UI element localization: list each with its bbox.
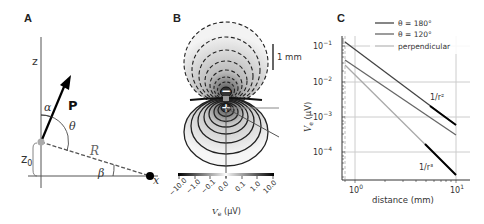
svg-text:10−1: 10−1 xyxy=(313,39,332,51)
annotation-1-r2: 1/r² xyxy=(430,93,444,102)
svg-text:100: 100 xyxy=(349,183,363,195)
svg-text:10−4: 10−4 xyxy=(313,145,332,157)
svg-text:10−3: 10−3 xyxy=(313,110,332,122)
c-x-axis-label: distance (mm) xyxy=(372,195,434,205)
svg-text:101: 101 xyxy=(450,183,464,195)
y-tick-labels: 10−1 10−2 10−3 10−4 xyxy=(313,39,332,157)
svg-text:10−2: 10−2 xyxy=(313,75,332,87)
annotation-1-r3: 1/r³ xyxy=(419,163,433,172)
c-y-axis-label: Ve (µV) xyxy=(303,102,314,132)
legend-label-theta-120: θ = 120° xyxy=(398,30,432,39)
panel-c-loglog-plot: 1/r² 1/r³ 10−1 10−2 10−3 10−4 Ve (µV) 10… xyxy=(0,0,484,224)
legend: θ = 180° θ = 120° perpendicular xyxy=(370,14,474,54)
slope-1-r2-segment xyxy=(430,106,456,125)
legend-label-theta-180: θ = 180° xyxy=(398,19,432,28)
x-tick-labels: 100 101 xyxy=(349,183,464,195)
grid-lines xyxy=(342,36,470,180)
legend-label-perpendicular: perpendicular xyxy=(398,42,451,51)
